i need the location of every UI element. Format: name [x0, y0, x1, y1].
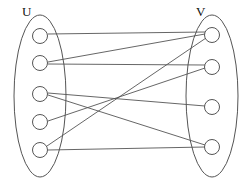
right-set-label: V [196, 4, 206, 19]
graph-node-u1 [33, 29, 48, 44]
graph-edge-u5-v4 [48, 147, 205, 150]
graph-node-v2 [205, 60, 220, 75]
graph-edge-u2-v2 [48, 64, 205, 65]
graph-canvas: U V [0, 0, 243, 186]
graph-node-u4 [33, 115, 48, 130]
graph-node-v1 [205, 28, 220, 43]
graph-edge-u5-v1 [47, 38, 206, 146]
graph-node-u5 [33, 143, 48, 158]
graph-edge-u3-v4 [48, 95, 205, 145]
graph-node-u3 [33, 87, 48, 102]
graph-node-v3 [205, 100, 220, 115]
graph-edge-u1-v1 [48, 32, 205, 34]
graph-node-u2 [33, 56, 48, 71]
right-nodes-layer [205, 28, 220, 155]
bipartite-graph-figure: U V [0, 0, 243, 186]
left-nodes-layer [33, 29, 48, 158]
graph-node-v4 [205, 140, 220, 155]
graph-edge-u2-v1 [48, 34, 205, 62]
left-set-label: U [22, 4, 32, 19]
edges-layer [47, 32, 206, 150]
